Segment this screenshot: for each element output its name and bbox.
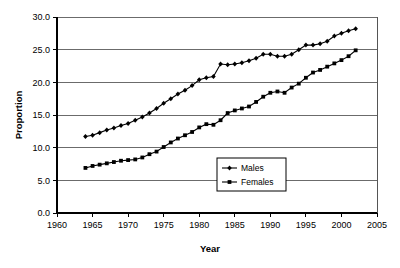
line-chart: 1960196519701975198019851990199520002005… [0,0,400,268]
data-point [190,130,194,134]
data-point [240,107,244,111]
x-tick-label: 1975 [154,220,174,230]
data-point [98,163,102,167]
data-point [169,141,173,145]
y-tick-label: 30.0 [32,12,50,22]
data-point [155,150,159,154]
x-tick-label: 1985 [225,220,245,230]
data-point [354,48,358,52]
x-tick-label: 1965 [83,220,103,230]
chart-container: 1960196519701975198019851990199520002005… [0,0,400,268]
data-point [226,111,230,115]
data-point [162,145,166,149]
x-tick-label: 1960 [47,220,67,230]
x-tick-label: 2005 [367,220,387,230]
data-point [268,91,272,95]
y-tick-label: 15.0 [32,110,50,120]
data-point [212,123,216,127]
x-tick-label: 2000 [331,220,351,230]
x-tick-label: 1995 [296,220,316,230]
data-point [197,126,201,130]
data-point [140,156,144,160]
y-tick-label: 0.0 [37,208,50,218]
data-point [347,54,351,58]
data-point [340,58,344,62]
data-point [297,82,301,86]
data-point [261,95,265,99]
x-axis-title: Year [200,243,220,254]
data-point [105,161,109,165]
data-point [91,164,95,168]
y-tick-label: 20.0 [32,78,50,88]
data-point [290,86,294,90]
data-point [133,158,137,162]
data-point [247,105,251,109]
data-point [112,160,116,164]
data-point [204,122,208,126]
data-point [148,152,152,156]
x-tick-label: 1990 [260,220,280,230]
data-point [304,76,308,80]
y-tick-label: 10.0 [32,143,50,153]
data-point [276,90,280,94]
data-point [119,159,123,163]
legend-marker-icon [228,180,232,184]
data-point [84,166,88,170]
chart-legend[interactable]: MalesFemales [217,158,286,191]
legend-label: Females [241,177,274,187]
data-point [325,65,329,69]
data-point [233,109,237,113]
y-axis-title: Proportion [13,91,24,140]
y-tick-label: 5.0 [37,176,50,186]
legend-label: Males [241,163,264,173]
x-tick-label: 1980 [189,220,209,230]
data-point [126,158,130,162]
data-point [318,68,322,72]
data-point [332,61,336,65]
data-point [176,137,180,141]
x-tick-label: 1970 [118,220,138,230]
data-point [311,71,315,75]
data-point [283,91,287,95]
data-point [219,118,223,122]
data-point [183,133,187,137]
data-point [254,100,258,104]
y-tick-label: 25.0 [32,45,50,55]
